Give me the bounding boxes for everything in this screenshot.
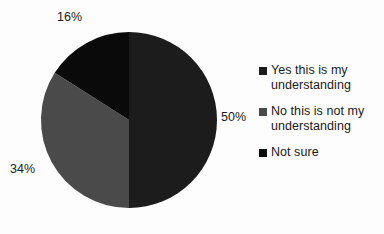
legend-swatch-icon-no — [259, 108, 267, 116]
pie-slice-group — [41, 32, 217, 208]
legend-item-not-sure[interactable]: Not sure — [259, 145, 384, 160]
pie-slice[interactable] — [129, 32, 217, 208]
legend-item-yes[interactable]: Yes this is my understanding — [259, 63, 384, 93]
pie-plot-area: 16% 34% 50% — [0, 0, 240, 234]
pie-chart: 16% 34% 50% Yes this is my understanding… — [0, 0, 384, 234]
data-label-yes: 50% — [221, 110, 246, 124]
pie-svg — [0, 0, 240, 234]
legend-swatch-icon-not-sure — [259, 149, 267, 157]
legend-item-no[interactable]: No this is not my understanding — [259, 104, 384, 134]
data-label-no: 34% — [10, 162, 35, 176]
chart-legend: Yes this is my understanding No this is … — [259, 63, 384, 171]
legend-swatch-icon-yes — [259, 67, 267, 75]
legend-label-not-sure: Not sure — [271, 145, 319, 160]
data-label-not-sure: 16% — [57, 10, 82, 24]
legend-label-no: No this is not my understanding — [271, 104, 384, 134]
legend-label-yes: Yes this is my understanding — [271, 63, 384, 93]
